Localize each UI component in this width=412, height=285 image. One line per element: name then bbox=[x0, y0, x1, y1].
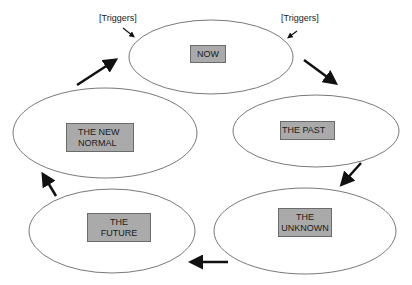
node-future-label-2: FUTURE bbox=[101, 228, 138, 239]
node-past: THE PAST bbox=[280, 121, 335, 140]
trigger-label-right: [Triggers] bbox=[281, 13, 319, 23]
trigger-arrow-right bbox=[289, 31, 297, 37]
node-unknown-label-1: THE bbox=[296, 212, 314, 223]
arrow-now-to-past bbox=[304, 60, 334, 82]
trigger-label-left: [Triggers] bbox=[99, 13, 137, 23]
arrow-past-to-unknown bbox=[343, 163, 361, 183]
node-new-normal-label-1: THE NEW bbox=[78, 127, 120, 138]
node-future-label-1: THE bbox=[110, 217, 128, 228]
node-new-normal: THE NEW NORMAL bbox=[66, 123, 134, 152]
trigger-arrow-left bbox=[123, 28, 133, 36]
node-past-label: THE PAST bbox=[282, 125, 325, 136]
cycle-diagram bbox=[0, 0, 412, 285]
arrow-future-to-new-normal bbox=[44, 176, 56, 196]
node-now: NOW bbox=[190, 45, 226, 63]
node-future: THE FUTURE bbox=[87, 213, 151, 242]
node-now-label: NOW bbox=[197, 49, 219, 60]
node-unknown-label-2: UNKNOWN bbox=[281, 223, 329, 234]
node-unknown: THE UNKNOWN bbox=[278, 208, 332, 237]
arrow-new-normal-to-now bbox=[77, 61, 114, 85]
node-new-normal-label-2: NORMAL bbox=[78, 138, 117, 149]
